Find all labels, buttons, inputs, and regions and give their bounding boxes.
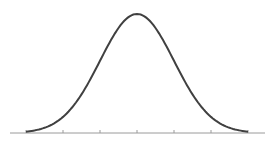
bell-curve-line [26, 14, 248, 132]
bell-curve-chart [0, 0, 277, 143]
